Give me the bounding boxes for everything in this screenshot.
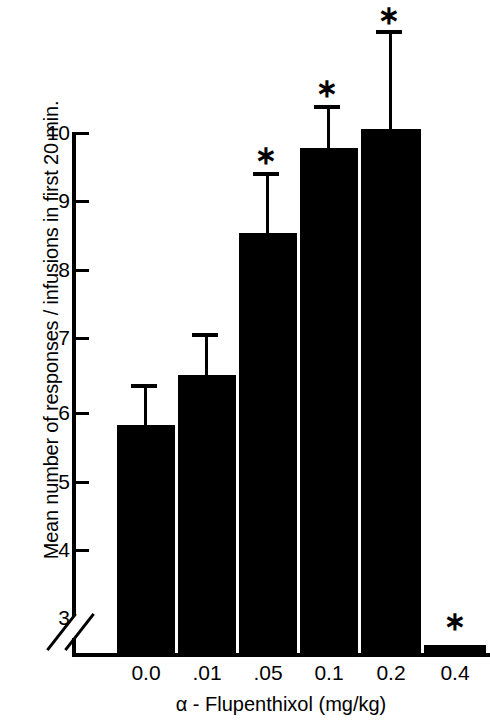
bar-0-4	[424, 645, 486, 655]
error-bar-stem-05	[266, 175, 269, 234]
significance-asterisk-0-1: ∗	[314, 75, 340, 101]
bar-01	[178, 375, 236, 655]
error-bar-stem-0-0	[144, 386, 147, 426]
y-tick-label-10-wrap: 10	[28, 122, 70, 143]
y-tick-label-10: 10	[36, 122, 70, 143]
x-tick-label-0-4: 0.4	[417, 661, 490, 685]
y-tick-label-6: 6	[36, 402, 70, 423]
y-tick-mark-5	[76, 481, 89, 484]
significance-asterisk-05: ∗	[253, 142, 279, 168]
y-tick-label-5: 5	[36, 471, 70, 492]
x-axis-title: α - Flupenthixol (mg/kg)	[72, 692, 490, 716]
y-tick-mark-9	[76, 200, 89, 203]
y-tick-label-9-wrap: 9	[28, 190, 70, 211]
error-bar-stem-0-2	[389, 33, 392, 130]
y-tick-mark-4	[76, 549, 89, 552]
bar-0-0	[117, 425, 175, 655]
y-tick-label-4-wrap: 4	[28, 539, 70, 560]
bar-0-2	[361, 129, 421, 655]
y-tick-mark-10	[76, 132, 89, 135]
y-tick-label-5-wrap: 5	[28, 471, 70, 492]
y-tick-label-7-wrap: 7	[28, 327, 70, 348]
bar-0-1	[300, 148, 358, 655]
error-bar-cap-0-2	[376, 30, 402, 34]
y-tick-mark-7	[76, 337, 89, 340]
y-axis-line-upper	[72, 132, 76, 616]
error-bar-stem-0-1	[327, 108, 330, 149]
bar-chart-figure: Mean number of responses / infusions in …	[0, 0, 490, 720]
y-tick-label-8-wrap: 8	[28, 259, 70, 280]
error-bar-cap-05	[253, 172, 279, 176]
bar-05	[239, 233, 297, 655]
error-bar-cap-0-0	[131, 384, 157, 388]
y-tick-label-7: 7	[36, 327, 70, 348]
y-tick-label-9: 9	[36, 190, 70, 211]
y-tick-label-8: 8	[36, 259, 70, 280]
error-bar-cap-0-1	[314, 105, 340, 109]
y-tick-mark-8	[76, 269, 89, 272]
error-bar-stem-01	[205, 336, 208, 376]
significance-asterisk-0-2: ∗	[376, 2, 402, 28]
significance-asterisk-0-4: ∗	[442, 608, 468, 634]
y-tick-label-4: 4	[36, 539, 70, 560]
y-tick-mark-6	[76, 412, 89, 415]
y-tick-label-6-wrap: 6	[28, 402, 70, 423]
error-bar-cap-01	[192, 333, 218, 337]
